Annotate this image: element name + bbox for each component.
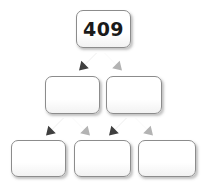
node-box-level2-right[interactable] [138,140,196,177]
factor-tree-diagram: 409 [0,0,209,185]
node-box-level2-left[interactable] [11,140,66,177]
arrow-down-left-icon [76,51,98,73]
node-box-level2-middle[interactable] [74,140,131,177]
node-box-root[interactable]: 409 [76,10,131,48]
node-box-level1-right[interactable] [106,76,162,114]
arrow-down-right-icon [103,51,125,73]
arrow-down-left-icon [106,116,128,138]
node-label-root: 409 [83,20,124,39]
arrow-down-right-icon [71,116,93,138]
arrow-down-right-icon [134,116,156,138]
arrow-down-left-icon [43,116,65,138]
node-box-level1-left[interactable] [45,76,100,114]
